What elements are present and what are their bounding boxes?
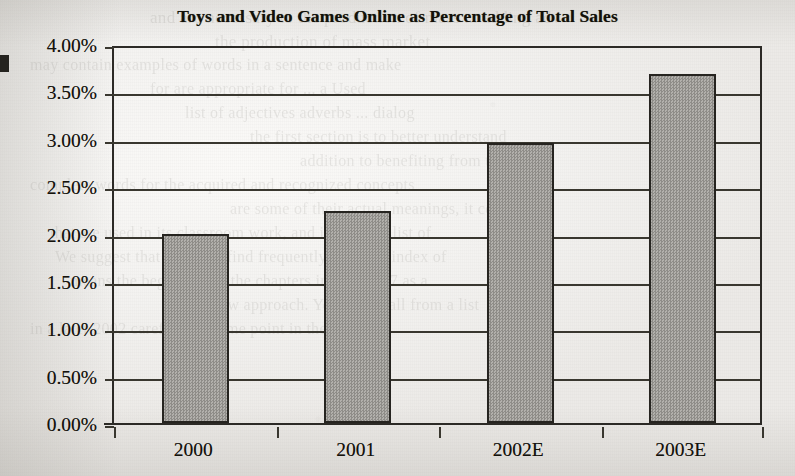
bar <box>649 74 716 423</box>
y-axis-tick-label: 2.00% <box>0 225 97 247</box>
plot-area <box>112 46 762 425</box>
scan-edge-artifact <box>0 55 9 72</box>
x-axis-tick-label: 2001 <box>336 439 375 461</box>
y-axis-tick-label: 3.50% <box>0 82 97 104</box>
y-axis-tick <box>105 426 114 428</box>
y-axis-tick <box>105 94 114 96</box>
x-axis-tick <box>439 427 441 438</box>
y-axis-tick-label: 1.00% <box>0 319 97 341</box>
chart-title: Toys and Video Games Online as Percentag… <box>0 6 795 27</box>
x-axis-tick-label: 2000 <box>174 439 213 461</box>
x-axis-tick <box>762 427 764 438</box>
scanned-page: and arc necessary to the production of m… <box>0 0 795 476</box>
x-axis-tick-label: 2002E <box>493 439 544 461</box>
y-axis-tick-label: 3.00% <box>0 130 97 152</box>
x-axis-tick <box>277 427 279 438</box>
bar <box>162 234 229 424</box>
y-axis-tick <box>105 379 114 381</box>
y-axis-tick-label: 1.50% <box>0 272 97 294</box>
y-axis-tick-label: 0.00% <box>0 414 97 436</box>
y-axis-tick <box>105 331 114 333</box>
bar <box>324 211 391 423</box>
y-axis-tick <box>105 47 114 49</box>
y-axis-tick-label: 2.50% <box>0 177 97 199</box>
y-axis-tick-label: 0.50% <box>0 367 97 389</box>
bar <box>487 143 554 423</box>
x-axis-tick <box>602 427 604 438</box>
y-axis-tick <box>105 142 114 144</box>
y-axis-tick <box>105 284 114 286</box>
y-axis-tick-label: 4.00% <box>0 35 97 57</box>
x-axis-tick <box>114 427 116 438</box>
x-axis-tick-label: 2003E <box>655 439 706 461</box>
y-axis-tick <box>105 189 114 191</box>
axis-origin-stub <box>104 423 114 425</box>
y-axis-tick <box>105 237 114 239</box>
